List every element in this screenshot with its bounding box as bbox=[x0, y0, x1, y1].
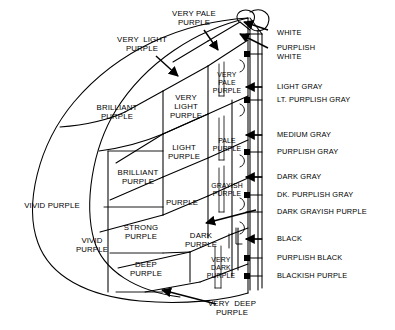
label-purplish-gray: PURPLISH GRAY bbox=[277, 148, 338, 157]
label-dark-gray: DARK GRAY bbox=[277, 173, 321, 182]
label-very-pale-purple-in: VERY PALE PURPLE bbox=[213, 71, 241, 95]
label-light-gray: LIGHT GRAY bbox=[277, 83, 323, 92]
label-very-deep-purple-callout: VERY DEEP PURPLE bbox=[208, 299, 256, 317]
label-pale-purple: PALE PURPLE bbox=[213, 137, 241, 153]
label-deep-purple: DEEP PURPLE bbox=[130, 260, 162, 278]
label-purple: PURPLE bbox=[166, 198, 198, 207]
neutral-tick-squares bbox=[244, 51, 250, 279]
label-purplish-black: PURPLISH BLACK bbox=[277, 254, 342, 263]
label-light-purple: LIGHT PURPLE bbox=[168, 143, 200, 161]
label-black: BLACK bbox=[277, 235, 302, 244]
label-dark-purple: DARK PURPLE bbox=[185, 231, 217, 249]
label-brilliant-purple-top: BRILLIANT PURPLE bbox=[97, 103, 138, 121]
label-blackish-purple: BLACKISH PURPLE bbox=[277, 272, 347, 281]
label-grayish-purple: GRAYISH PURPLE bbox=[211, 182, 243, 198]
label-brilliant-purple-mid: BRILLIANT PURPLE bbox=[118, 168, 159, 186]
label-very-dark-purple: VERY DARK PURPLE bbox=[207, 256, 235, 280]
color-chart-figure: VIVID PURPLEVIVID PURPLEBRILLIANT PURPLE… bbox=[0, 0, 395, 330]
label-purplish-white: PURPLISH WHITE bbox=[277, 44, 315, 61]
label-dk-purplish-gray: DK. PURPLISH GRAY bbox=[277, 191, 353, 200]
label-very-light-purple: VERY LIGHT PURPLE bbox=[170, 93, 202, 121]
chart-linework bbox=[0, 0, 395, 330]
label-very-pale-purple-callout: VERY PALE PURPLE bbox=[172, 9, 216, 27]
label-medium-gray: MEDIUM GRAY bbox=[277, 131, 331, 140]
label-vivid-purple-outer: VIVID PURPLE bbox=[24, 201, 80, 210]
label-strong-purple: STRONG PURPLE bbox=[124, 223, 158, 241]
label-vivid-purple-inner: VIVID PURPLE bbox=[76, 236, 108, 254]
label-lt-purplish-gray: LT. PURPLISH GRAY bbox=[277, 96, 350, 105]
label-dark-grayish-purple: DARK GRAYISH PURPLE bbox=[277, 208, 367, 217]
label-white: WHITE bbox=[277, 29, 302, 38]
label-very-light-purple-callout: VERY LIGHT PURPLE bbox=[117, 35, 167, 53]
